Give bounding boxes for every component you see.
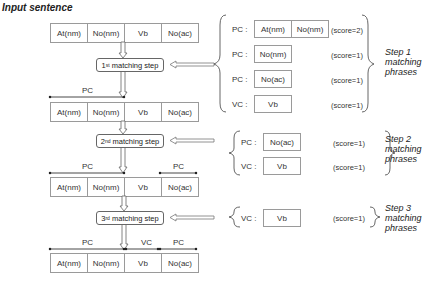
phrase-row: VC : Vb bbox=[241, 209, 301, 227]
token-cell: No(ac) bbox=[255, 71, 291, 87]
phrase-row: VC : Vb bbox=[232, 95, 292, 113]
phrase-row: PC : No(ac) bbox=[241, 133, 301, 151]
step-2-caption: Step 2 matching phrases bbox=[385, 134, 422, 164]
phrase-type: VC : bbox=[232, 100, 254, 109]
step-3-caption: Step 3 matching phrases bbox=[385, 203, 422, 233]
phrase-type: PC : bbox=[232, 25, 254, 34]
span-label-pc: PC bbox=[82, 162, 93, 171]
span-label-pc: PC bbox=[173, 238, 184, 247]
step-ordinal: st bbox=[106, 62, 110, 68]
caption-line: Step 3 bbox=[385, 203, 422, 213]
span-label-pc: PC bbox=[173, 162, 184, 171]
token-cell: Vb bbox=[255, 96, 291, 112]
caption-line: phrases bbox=[385, 154, 422, 164]
matching-step-2-box: 2nd matching step bbox=[96, 134, 164, 148]
step-label: matching step bbox=[112, 214, 159, 223]
phrase-score: (score=1) bbox=[331, 51, 363, 60]
caption-line: Step 1 bbox=[385, 47, 422, 57]
phrase-box: Vb bbox=[263, 209, 301, 227]
span-label-vc: VC bbox=[141, 238, 152, 247]
caption-line: matching bbox=[385, 213, 422, 223]
phrase-box: Vb bbox=[254, 95, 292, 113]
phrase-type: VC : bbox=[241, 214, 263, 223]
connector-lines bbox=[0, 0, 430, 281]
caption-line: Step 2 bbox=[385, 134, 422, 144]
phrase-score: (score=1) bbox=[331, 101, 363, 110]
phrase-row: VC : Vb bbox=[241, 157, 301, 175]
phrase-box: No(ac) bbox=[254, 70, 292, 88]
caption-line: matching bbox=[385, 144, 422, 154]
step-ordinal: rd bbox=[105, 215, 109, 221]
step-label: matching step bbox=[113, 137, 160, 146]
step-label: matching step bbox=[112, 61, 159, 70]
phrase-row: PC : No(ac) bbox=[232, 70, 292, 88]
token-cell: No(nm) bbox=[292, 21, 328, 37]
phrase-score: (score=1) bbox=[333, 163, 365, 172]
matching-step-3-box: 3rd matching step bbox=[96, 211, 164, 225]
caption-line: phrases bbox=[385, 223, 422, 233]
phrase-box: No(nm) bbox=[254, 45, 292, 63]
phrase-box: At(nm) No(nm) bbox=[254, 20, 329, 38]
caption-line: matching bbox=[385, 57, 422, 67]
token-cell: At(nm) bbox=[255, 21, 292, 37]
phrase-box: No(ac) bbox=[263, 133, 301, 151]
phrase-score: (score=1) bbox=[333, 214, 365, 223]
phrase-type: PC : bbox=[232, 50, 254, 59]
phrase-box: Vb bbox=[263, 157, 301, 175]
phrase-type: VC : bbox=[241, 162, 263, 171]
step-1-caption: Step 1 matching phrases bbox=[385, 47, 422, 77]
phrase-score: (score=1) bbox=[331, 76, 363, 85]
token-cell: No(nm) bbox=[255, 46, 291, 62]
span-label-pc: PC bbox=[82, 238, 93, 247]
matching-step-1-box: 1st matching step bbox=[96, 58, 164, 72]
phrase-score: (score=2) bbox=[331, 26, 363, 35]
phrase-row: PC : At(nm) No(nm) bbox=[232, 20, 329, 38]
token-cell: Vb bbox=[264, 210, 300, 226]
phrase-row: PC : No(nm) bbox=[232, 45, 292, 63]
phrase-score: (score=1) bbox=[333, 139, 365, 148]
phrase-type: PC : bbox=[232, 75, 254, 84]
step-ordinal: nd bbox=[105, 138, 111, 144]
span-label-pc: PC bbox=[82, 86, 93, 95]
phrase-type: PC : bbox=[241, 138, 263, 147]
caption-line: phrases bbox=[385, 67, 422, 77]
token-cell: Vb bbox=[264, 158, 300, 174]
token-cell: No(ac) bbox=[264, 134, 300, 150]
